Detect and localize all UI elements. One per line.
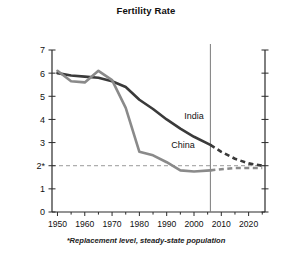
series-label-india: India: [184, 111, 204, 121]
x-tick-label: 2010: [212, 219, 231, 229]
y-tick-label: 1: [40, 184, 45, 194]
chart-title: Fertility Rate: [0, 5, 292, 16]
x-tick-label: 1990: [157, 219, 176, 229]
x-tick-label: 2000: [184, 219, 203, 229]
y-tick-label: 3: [40, 138, 45, 148]
series-projection-india: [210, 145, 262, 166]
x-tick-label: 2020: [239, 219, 258, 229]
x-tick-label: 1960: [75, 219, 94, 229]
y-tick-label: 2*: [36, 161, 45, 171]
series-label-china: China: [171, 140, 195, 150]
y-tick-label: 7: [40, 45, 45, 55]
x-tick-label: 1950: [48, 219, 67, 229]
chart-plot-area: 012*345671950196019701980199020002010202…: [0, 0, 292, 263]
fertility-rate-chart: Fertility Rate Children per woman 012*34…: [0, 0, 292, 263]
y-tick-label: 4: [40, 115, 45, 125]
y-tick-label: 5: [40, 92, 45, 102]
x-tick-label: 1970: [103, 219, 122, 229]
x-tick-label: 1980: [130, 219, 149, 229]
chart-footnote: *Replacement level, steady-state populat…: [0, 236, 292, 245]
y-tick-label: 0: [40, 207, 45, 217]
y-tick-label: 6: [40, 69, 45, 79]
series-projection-china: [210, 168, 262, 170]
